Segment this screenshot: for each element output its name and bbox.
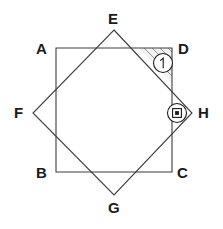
vertex-label-f: F [14, 105, 23, 120]
vertex-label-a: A [36, 41, 47, 56]
vertex-label-h: H [198, 105, 209, 120]
vertex-label-d: D [178, 41, 189, 56]
vertex-label-b: B [36, 165, 47, 180]
figure-canvas [0, 0, 223, 229]
right-angle-marker [168, 104, 187, 123]
vertex-label-c: C [177, 165, 188, 180]
geometry-figure: A B C D E F G H [0, 0, 223, 229]
angle-marker-one [154, 54, 173, 73]
vertex-label-e: E [108, 11, 118, 26]
vertex-label-g: G [108, 200, 120, 215]
